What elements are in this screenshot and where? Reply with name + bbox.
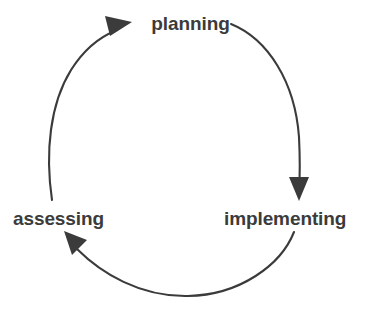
arrowhead-down-icon	[289, 177, 309, 201]
arrow-shaft-assessing-to-planning	[49, 31, 115, 200]
node-label-assessing: assessing	[13, 208, 104, 230]
arrow-planning-to-implementing	[231, 24, 309, 201]
arrow-shaft-implementing-to-assessing	[77, 232, 294, 296]
node-label-implementing: implementing	[224, 208, 346, 230]
arrow-implementing-to-assessing	[64, 231, 294, 296]
cycle-diagram: planning implementing assessing	[0, 0, 381, 310]
node-label-planning: planning	[0, 13, 381, 35]
arrow-assessing-to-planning	[49, 16, 132, 200]
arrow-shaft-planning-to-implementing	[231, 24, 300, 189]
arrowhead-up-left-icon	[64, 231, 87, 255]
cycle-arrows-graphic	[0, 0, 381, 310]
